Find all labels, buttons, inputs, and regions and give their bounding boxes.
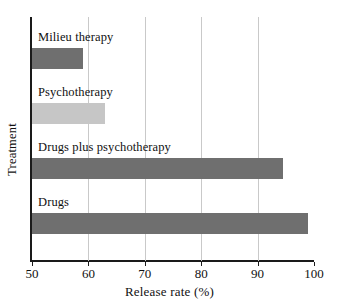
bar-chart: Treatment Milieu therapy Psychotherapy D… <box>0 0 339 306</box>
bar-drugs[interactable] <box>32 213 308 234</box>
y-axis-title: Treatment <box>5 90 20 210</box>
x-tick-label-60: 60 <box>68 266 108 282</box>
x-tick-label-50: 50 <box>12 266 52 282</box>
x-tick-label-80: 80 <box>181 266 221 282</box>
bar-drugs-plus-psychotherapy[interactable] <box>32 158 283 179</box>
category-label-drugs-plus-psychotherapy: Drugs plus psychotherapy <box>38 140 171 155</box>
x-tick-label-90: 90 <box>238 266 278 282</box>
x-tick-label-100: 100 <box>294 266 334 282</box>
plot-area: Milieu therapy Psychotherapy Drugs plus … <box>32 17 314 261</box>
bar-milieu-therapy[interactable] <box>32 48 83 69</box>
category-label-psychotherapy: Psychotherapy <box>38 85 113 100</box>
category-label-drugs: Drugs <box>38 195 69 210</box>
x-axis-title: Release rate (%) <box>0 284 339 300</box>
category-label-milieu-therapy: Milieu therapy <box>38 30 113 45</box>
bar-psychotherapy[interactable] <box>32 103 105 124</box>
x-tick-label-70: 70 <box>125 266 165 282</box>
